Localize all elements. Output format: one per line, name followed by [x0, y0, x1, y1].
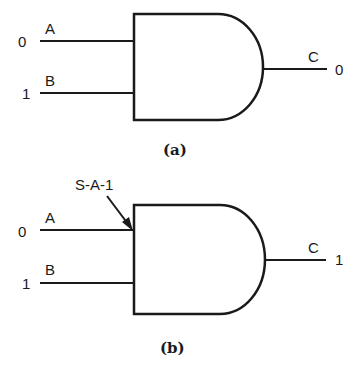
input-b-label: B — [45, 261, 55, 278]
input-a-label: A — [45, 209, 55, 226]
diagram-b: S-A-1 0 A 1 B C 1 (b) — [18, 176, 343, 357]
input-b-label: B — [45, 72, 55, 89]
input-b-value: 1 — [22, 85, 30, 102]
input-a-value: 0 — [18, 33, 26, 50]
output-c-value: 0 — [335, 61, 343, 78]
caption-b: (b) — [160, 339, 185, 357]
output-c-value: 1 — [335, 251, 343, 268]
output-c-label: C — [308, 48, 319, 65]
diagram-a: 0 A 1 B C 0 (a) — [18, 14, 343, 159]
and-gate-icon — [134, 14, 263, 120]
input-b-value: 1 — [22, 275, 30, 292]
input-a-value: 0 — [18, 223, 26, 240]
and-gate-fault-diagram: 0 A 1 B C 0 (a) S-A-1 0 A 1 B C 1 (b) — [0, 0, 358, 368]
fault-label: S-A-1 — [75, 176, 113, 193]
caption-a: (a) — [163, 141, 187, 159]
input-a-label: A — [45, 20, 55, 37]
output-c-label: C — [308, 239, 319, 256]
and-gate-icon — [134, 205, 265, 314]
fault-arrow-icon — [107, 196, 128, 224]
